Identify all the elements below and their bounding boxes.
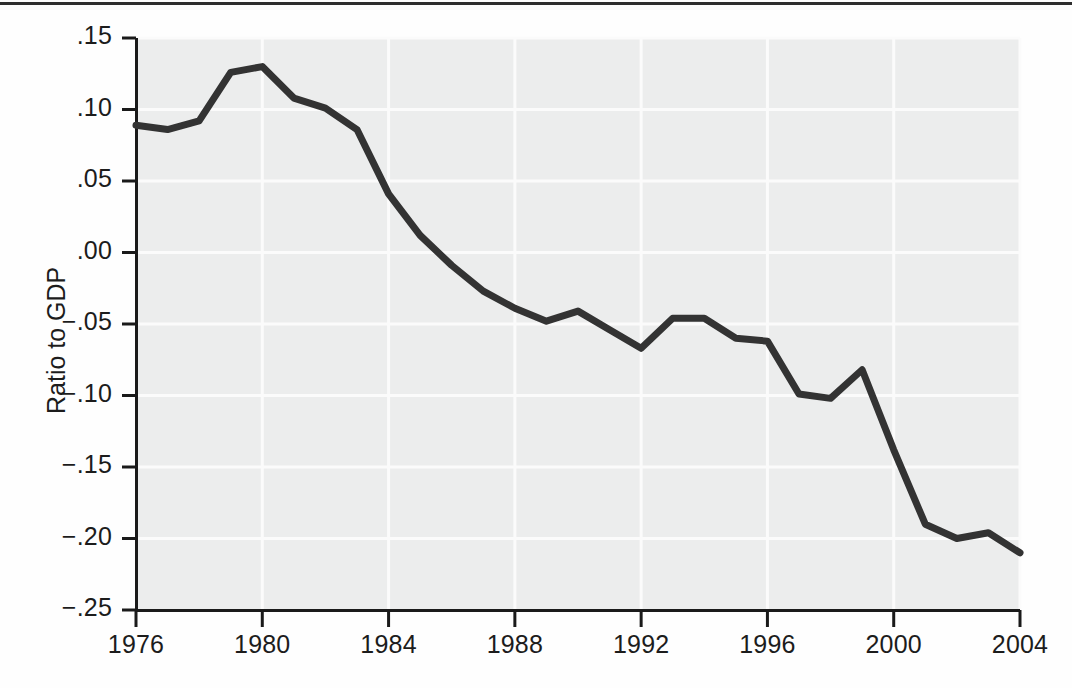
figure-container: Ratio to GDP .15.10.05.00−.05−.10−.15−.2… [0, 0, 1072, 688]
x-tick-label: 1996 [707, 630, 827, 659]
x-tick-label: 1988 [455, 630, 575, 659]
y-tick-label: .00 [0, 236, 112, 265]
y-tick-label: −.20 [0, 522, 112, 551]
page-canvas: Ratio to GDP .15.10.05.00−.05−.10−.15−.2… [0, 0, 1072, 688]
y-tick-label: −.10 [0, 379, 112, 408]
x-tick-label: 1992 [581, 630, 701, 659]
y-tick-label: .15 [0, 21, 112, 50]
line-chart-svg [0, 0, 1072, 688]
x-tick-label: 1984 [329, 630, 449, 659]
x-tick-label: 1980 [202, 630, 322, 659]
x-axis-tick-marks [136, 610, 1020, 627]
x-tick-label: 1976 [76, 630, 196, 659]
x-tick-label: 2004 [960, 630, 1072, 659]
y-tick-label: .10 [0, 93, 112, 122]
y-tick-label: .05 [0, 164, 112, 193]
y-tick-label: −.15 [0, 450, 112, 479]
x-tick-label: 2000 [834, 630, 954, 659]
y-tick-label: −.25 [0, 593, 112, 622]
y-tick-label: −.05 [0, 307, 112, 336]
